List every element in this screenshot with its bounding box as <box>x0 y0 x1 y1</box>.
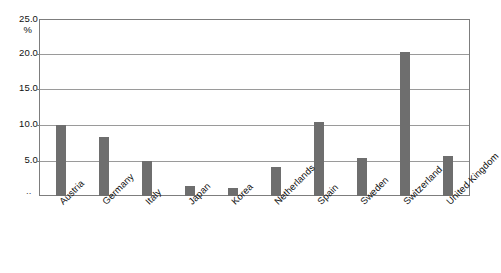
bar-slot <box>168 19 211 196</box>
bar-slot <box>384 19 427 196</box>
y-tick-label-10: 10.0 <box>19 119 38 129</box>
bar-spain[interactable] <box>314 122 324 196</box>
bar-austria[interactable] <box>56 125 66 196</box>
y-tick-label-25: 25.0 <box>19 14 38 24</box>
bar-slot <box>255 19 298 196</box>
bar-slot <box>82 19 125 196</box>
axis-break-marker: .. <box>26 186 31 196</box>
bar-slot <box>341 19 384 196</box>
x-axis: AustriaGermanyItalyJapanKoreaNetherlands… <box>39 197 470 273</box>
bar-slot <box>125 19 168 196</box>
y-tick-label-20: 20.0 <box>19 48 38 58</box>
bar-switzerland[interactable] <box>400 52 410 196</box>
bar-slot <box>211 19 254 196</box>
bar-series <box>39 19 470 196</box>
y-tick-label-5: 5.0 <box>24 155 38 165</box>
bar-germany[interactable] <box>99 137 109 196</box>
y-tick-label-15: 15.0 <box>19 83 38 93</box>
bar-slot <box>39 19 82 196</box>
y-axis-unit-label: % <box>24 25 32 35</box>
y-axis: 25.0 % 20.0 15.0 10.0 5.0 .. <box>0 0 38 273</box>
